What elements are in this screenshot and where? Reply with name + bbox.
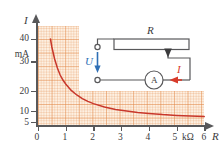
current-label: I xyxy=(177,64,181,75)
current-arrow-icon xyxy=(170,77,183,84)
potentiometer-circuit-diagram xyxy=(0,0,222,151)
terminal-bottom xyxy=(95,77,100,82)
wiper-arrow-icon xyxy=(164,49,172,58)
figure-canvas: 40 mA 30 20 10 5 I 0 1 2 3 4 5 kΩ 6 R xyxy=(0,0,222,151)
resistor-label: R xyxy=(147,25,154,36)
resistor-body xyxy=(114,39,189,50)
ammeter-label: A xyxy=(151,76,158,85)
voltage-label: U xyxy=(85,56,93,67)
voltage-arrow-icon xyxy=(94,52,100,73)
terminal-top xyxy=(95,44,100,49)
